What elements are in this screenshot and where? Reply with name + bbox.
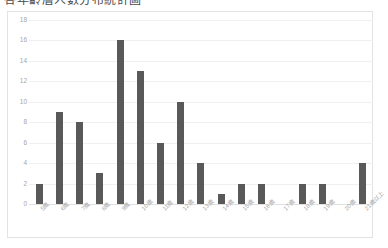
bar-slot — [312, 20, 332, 204]
chart-frame: 181614121086420 5歲6歲7歲8歲9歲10歲11歲12歲13歲14… — [7, 11, 373, 238]
x-axis: 5歲6歲7歲8歲9歲10歲11歲12歲13歲14歲15歲16歲17歲18歲19歲… — [29, 206, 373, 240]
bar-slot — [171, 20, 191, 204]
bar-slot — [272, 20, 292, 204]
bar-series — [29, 20, 373, 204]
chart-screenshot: 各年齡層人數分布統計圖 181614121086420 5歲6歲7歲8歲9歲10… — [0, 0, 388, 248]
bar[interactable] — [117, 40, 124, 204]
y-axis: 181614121086420 — [8, 20, 27, 204]
bar-slot — [252, 20, 272, 204]
y-axis-tick-label: 18 — [11, 17, 27, 24]
bar[interactable] — [359, 163, 366, 204]
y-axis-tick-label: 12 — [11, 78, 27, 85]
bar-slot — [191, 20, 211, 204]
bar[interactable] — [56, 112, 63, 204]
y-axis-tick-label: 16 — [11, 37, 27, 44]
bar[interactable] — [197, 163, 204, 204]
bar-slot — [292, 20, 312, 204]
bar[interactable] — [137, 71, 144, 204]
bar-slot — [130, 20, 150, 204]
bar[interactable] — [76, 122, 83, 204]
bar-slot — [150, 20, 170, 204]
bar-slot — [29, 20, 49, 204]
y-axis-tick-label: 8 — [11, 119, 27, 126]
bar[interactable] — [96, 173, 103, 204]
bar-slot — [353, 20, 373, 204]
bar-slot — [231, 20, 251, 204]
chart-title-container: 各年齡層人數分布統計圖 — [0, 0, 388, 11]
bar-slot — [49, 20, 69, 204]
bar[interactable] — [157, 143, 164, 204]
y-axis-tick-label: 2 — [11, 181, 27, 188]
bar-slot — [211, 20, 231, 204]
y-axis-tick-label: 10 — [11, 99, 27, 106]
y-axis-tick-label: 4 — [11, 160, 27, 167]
y-axis-tick-label: 6 — [11, 140, 27, 147]
bar-slot — [110, 20, 130, 204]
bar-slot — [333, 20, 353, 204]
y-axis-tick-label: 0 — [11, 201, 27, 208]
chart-title: 各年齡層人數分布統計圖 — [4, 0, 142, 7]
bar[interactable] — [177, 102, 184, 204]
plot-area — [29, 20, 373, 204]
bar-slot — [90, 20, 110, 204]
y-axis-tick-label: 14 — [11, 58, 27, 65]
bar-slot — [69, 20, 89, 204]
